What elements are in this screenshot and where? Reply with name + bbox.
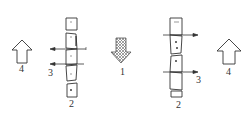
label-right-up-arrow: 4 — [226, 67, 231, 77]
right-segmented-column — [170, 18, 182, 97]
label-left-side-arrows: 3 — [48, 68, 53, 78]
label-right-column: 2 — [176, 100, 181, 110]
diagram-canvas — [0, 0, 250, 118]
center-down-arrow-icon — [111, 38, 131, 63]
right-up-arrow-icon — [217, 39, 241, 64]
label-right-side-arrows: 3 — [196, 75, 201, 85]
left-up-arrow-icon — [12, 40, 32, 63]
label-center-down-arrow: 1 — [120, 67, 125, 77]
left-segmented-column — [66, 18, 77, 97]
label-left-up-arrow: 4 — [19, 64, 24, 74]
label-left-column: 2 — [69, 99, 74, 109]
